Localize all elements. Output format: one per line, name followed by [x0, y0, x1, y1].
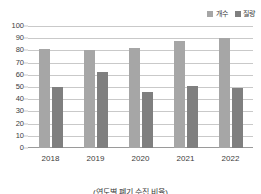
bar [174, 41, 185, 148]
x-tick-label: 2021 [165, 150, 206, 166]
bar [97, 72, 108, 148]
y-tick-label: 40 [16, 95, 24, 103]
bar-group [30, 26, 71, 148]
legend-label-count: 개수 [216, 10, 228, 17]
bar-groups [28, 26, 253, 148]
y-tick-label: 20 [16, 120, 24, 128]
plot-canvas [28, 26, 253, 148]
legend-entry-mass: 질량 [235, 10, 256, 17]
x-tick-label: 2022 [210, 150, 251, 166]
x-tick-label: 2018 [30, 150, 71, 166]
bar [129, 48, 140, 148]
bar [39, 49, 50, 148]
y-tick-label: 50 [16, 83, 24, 91]
bar-chart: 개수 질량 1009080706050403020100 20182019202… [0, 0, 261, 194]
bar [187, 86, 198, 148]
y-axis: 1009080706050403020100 [0, 26, 28, 158]
bar [219, 38, 230, 148]
legend-swatch-count-icon [207, 11, 213, 17]
y-tick-label: 70 [16, 59, 24, 67]
legend-swatch-mass-icon [235, 11, 241, 17]
y-tick-label: 90 [16, 34, 24, 42]
x-tick-label: 2019 [75, 150, 116, 166]
bar [232, 88, 243, 148]
bar-group [120, 26, 161, 148]
bar [84, 50, 95, 148]
y-tick-label: 60 [16, 71, 24, 79]
y-tick-label: 30 [16, 108, 24, 116]
plot-area: 1009080706050403020100 20182019202020212… [0, 26, 261, 158]
chart-legend: 개수 질량 [207, 8, 255, 19]
y-tick-label: 80 [16, 47, 24, 55]
legend-label-mass: 질량 [243, 10, 255, 17]
bar [142, 92, 153, 148]
y-tick-label: 100 [11, 22, 24, 30]
legend-entry-count: 개수 [207, 10, 228, 17]
x-tick-label: 2020 [120, 150, 161, 166]
bar [52, 87, 63, 148]
x-axis: 20182019202020212022 [28, 150, 253, 166]
y-tick-label: 10 [16, 132, 24, 140]
bar-group [75, 26, 116, 148]
bar-group [165, 26, 206, 148]
chart-caption: (연도별 폐기 수집 비율) [0, 188, 261, 194]
bar-group [210, 26, 251, 148]
